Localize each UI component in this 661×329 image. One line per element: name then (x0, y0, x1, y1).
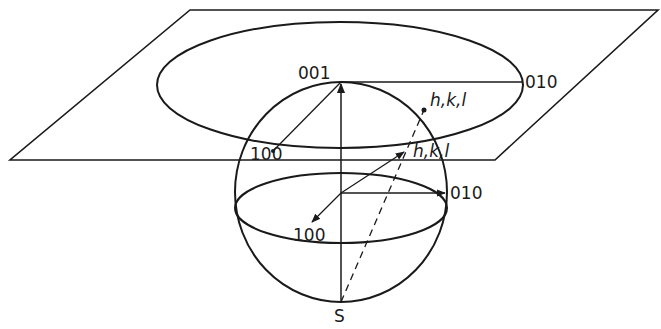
stereographic-projection-diagram: 001 010 100 h,k,l h,k,l 010 100 S (0, 0, 661, 329)
plane-primitive-ellipse (157, 22, 523, 148)
pole-hkl-plane-dot (422, 108, 427, 113)
label-100-sphere: 100 (293, 225, 325, 245)
label-001: 001 (298, 63, 330, 83)
label-hkl-sphere: h,k,l (413, 141, 449, 161)
label-100-plane: 100 (250, 144, 282, 164)
label-010-sphere: 010 (450, 183, 482, 203)
line-001-to-100-plane (273, 82, 341, 151)
label-south-pole: S (334, 306, 345, 326)
projection-plane (10, 10, 658, 160)
label-hkl-plane: h,k,l (430, 90, 466, 110)
label-010-plane: 010 (525, 72, 557, 92)
arrow-to-100 (312, 193, 341, 222)
